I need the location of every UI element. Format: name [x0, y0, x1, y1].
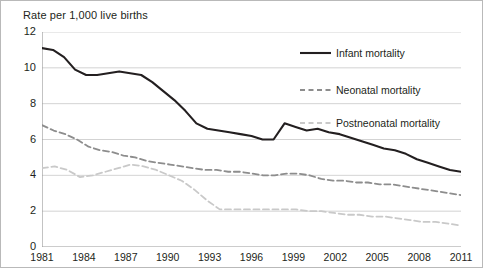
x-tick-label: 2002 [315, 251, 355, 263]
chart-title: Rate per 1,000 live births [23, 9, 148, 21]
legend-line-sample [300, 48, 331, 58]
y-tick-label: 12 [10, 25, 36, 37]
legend-label: Neonatal mortality [336, 84, 421, 96]
x-tick-label: 1996 [232, 251, 272, 263]
legend-line-sample [300, 118, 331, 128]
legend-item: Postneonatal mortality [300, 117, 440, 129]
legend-label: Infant mortality [336, 47, 405, 59]
x-tick-label: 2008 [399, 251, 439, 263]
y-tick-label: 6 [10, 133, 36, 145]
legend-item: Neonatal mortality [300, 84, 421, 96]
x-tick-label: 1984 [64, 251, 104, 263]
x-tick-label: 1999 [273, 251, 313, 263]
series-line-infant-mortality [42, 48, 461, 172]
x-tick-label: 1981 [22, 251, 62, 263]
x-tick-label: 1990 [148, 251, 188, 263]
chart-canvas [42, 32, 461, 247]
plot-area [42, 32, 461, 247]
legend-line-sample [300, 85, 331, 95]
gridlines [42, 32, 461, 247]
x-tick-label: 2011 [441, 251, 481, 263]
x-tick-label: 1993 [190, 251, 230, 263]
chart-figure: Rate per 1,000 live births 024681012 198… [0, 0, 483, 268]
data-series-layer [42, 48, 461, 225]
x-tick-label: 1987 [106, 251, 146, 263]
y-tick-label: 8 [10, 97, 36, 109]
legend-item: Infant mortality [300, 47, 405, 59]
x-tick-label: 2005 [357, 251, 397, 263]
series-line-postneonatal-mortality [42, 165, 461, 226]
legend-label: Postneonatal mortality [336, 117, 440, 129]
y-tick-label: 4 [10, 168, 36, 180]
y-tick-label: 2 [10, 204, 36, 216]
y-tick-label: 10 [10, 61, 36, 73]
